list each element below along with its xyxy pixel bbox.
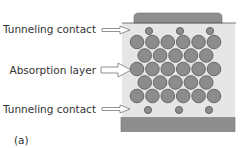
label-bottom-tunneling-contact: Tunneling contact [2,103,96,115]
label-top-tunneling-contact: Tunneling contact [2,23,96,35]
label-absorption-layer: Absorption layer [9,64,96,76]
top-electrode-pad [134,13,222,23]
panel-label: (a) [14,134,29,146]
bottom-electrode-pad [121,118,235,132]
device-diagram: Tunneling contact Absorption layer Tunne… [0,0,248,148]
